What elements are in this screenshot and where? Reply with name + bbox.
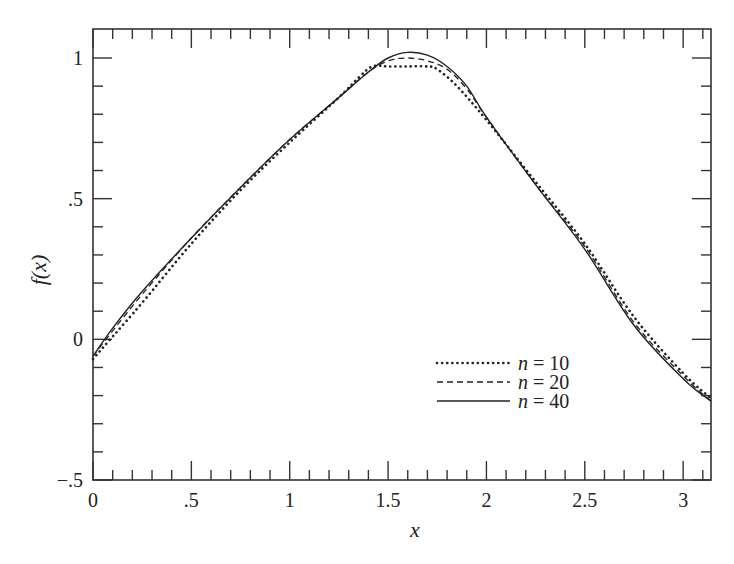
x-tick-label: 1.5 (376, 489, 401, 511)
line-chart: 0.511.522.53−.50.51 n = 10n = 20n = 40 x… (0, 0, 734, 564)
plot-frame (93, 29, 711, 480)
series-n10 (93, 66, 711, 399)
series-n40 (93, 52, 711, 401)
y-tick-label: −.5 (57, 469, 83, 491)
tick-labels: 0.511.522.53−.50.51 (57, 47, 688, 511)
series-n20 (93, 58, 711, 401)
plot-border (93, 29, 711, 480)
x-axis-label: x (409, 517, 420, 542)
axis-ticks (93, 29, 711, 480)
data-series (93, 52, 711, 401)
x-tick-label: 3 (678, 489, 688, 511)
x-tick-label: .5 (184, 489, 199, 511)
y-tick-label: 1 (73, 47, 83, 69)
legend: n = 10n = 20n = 40 (437, 352, 569, 412)
y-axis-label: f(x) (26, 255, 51, 286)
x-tick-label: 2 (481, 489, 491, 511)
y-tick-label: .5 (68, 188, 83, 210)
legend-label: n = 40 (518, 390, 569, 412)
x-tick-label: 2.5 (572, 489, 597, 511)
y-tick-label: 0 (73, 328, 83, 350)
x-tick-label: 0 (88, 489, 98, 511)
x-tick-label: 1 (285, 489, 295, 511)
